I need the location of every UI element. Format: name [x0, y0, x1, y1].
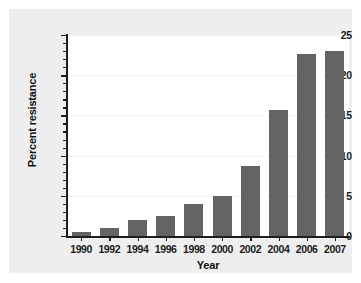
bar	[297, 54, 316, 236]
x-axis-tick	[81, 237, 82, 241]
x-axis-tick	[307, 237, 308, 241]
bar	[156, 216, 175, 236]
y-axis-minor-tick	[63, 148, 67, 149]
y-axis-minor-tick	[63, 91, 67, 92]
y-axis-minor-tick	[63, 140, 67, 141]
x-axis-tick	[166, 237, 167, 241]
y-axis-minor-tick	[63, 131, 67, 132]
y-axis-minor-tick	[63, 164, 67, 165]
y-axis-tick	[61, 115, 67, 116]
x-axis-tick	[109, 237, 110, 241]
figure-canvas: 0510152025 19901992199419961998200020022…	[9, 9, 352, 273]
bar	[269, 110, 288, 236]
y-axis-minor-tick	[63, 172, 67, 173]
y-axis-minor-tick	[63, 83, 67, 84]
y-axis-minor-tick	[63, 67, 67, 68]
chart-figure: 0510152025 19901992199419961998200020022…	[0, 0, 361, 283]
y-axis-minor-tick	[63, 212, 67, 213]
y-axis-minor-tick	[63, 59, 67, 60]
x-axis-tick-label: 2007	[318, 243, 352, 255]
x-axis-tick	[138, 237, 139, 241]
y-axis-line	[66, 34, 68, 237]
y-axis-minor-tick	[63, 180, 67, 181]
x-axis-tick	[279, 237, 280, 241]
y-axis-minor-tick	[63, 204, 67, 205]
bar	[72, 232, 91, 236]
y-axis-tick	[61, 156, 67, 157]
y-axis-tick	[61, 35, 67, 36]
x-axis-tick	[335, 237, 336, 241]
y-axis-minor-tick	[63, 51, 67, 52]
y-axis-tick-label: 25	[310, 29, 352, 41]
bar	[100, 228, 119, 236]
y-axis-tick	[61, 236, 67, 237]
y-axis-minor-tick	[63, 43, 67, 44]
bar	[184, 204, 203, 236]
y-axis-minor-tick	[63, 107, 67, 108]
gridline	[67, 35, 349, 36]
y-axis-title: Percent resistance	[26, 50, 38, 190]
y-axis-minor-tick	[63, 220, 67, 221]
y-axis-minor-tick	[63, 228, 67, 229]
x-axis-tick	[250, 237, 251, 241]
bar	[213, 196, 232, 236]
y-axis-minor-tick	[63, 188, 67, 189]
x-axis-tick	[222, 237, 223, 241]
bar	[241, 166, 260, 236]
x-axis-tick	[194, 237, 195, 241]
bar	[128, 220, 147, 236]
y-axis-tick	[61, 196, 67, 197]
bar	[325, 51, 344, 236]
y-axis-minor-tick	[63, 99, 67, 100]
y-axis-minor-tick	[63, 123, 67, 124]
x-axis-title: Year	[67, 259, 349, 271]
y-axis-tick	[61, 75, 67, 76]
